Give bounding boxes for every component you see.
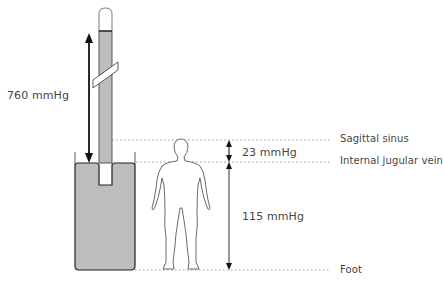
arrow-23-head-up	[226, 140, 232, 147]
arrow-760-head-down	[85, 153, 93, 163]
label-115-mmhg: 115 mmHg	[242, 210, 304, 223]
label-foot: Foot	[340, 264, 362, 275]
tube-top-cap	[99, 8, 112, 31]
label-sagittal-sinus: Sagittal sinus	[340, 133, 409, 144]
arrow-760-head-up	[85, 33, 93, 43]
arrow-115-head-down	[226, 263, 232, 270]
label-internal-jugular-vein: Internal jugular vein	[340, 155, 443, 166]
label-760-mmhg: 760 mmHg	[7, 89, 69, 102]
arrow-115-head-up	[226, 162, 232, 169]
human-figure-icon	[152, 139, 210, 269]
reservoir-fluid	[75, 163, 135, 270]
label-23-mmhg: 23 mmHg	[242, 146, 297, 159]
tube-fluid-column	[99, 31, 112, 163]
arrow-23-head-down	[226, 155, 232, 162]
